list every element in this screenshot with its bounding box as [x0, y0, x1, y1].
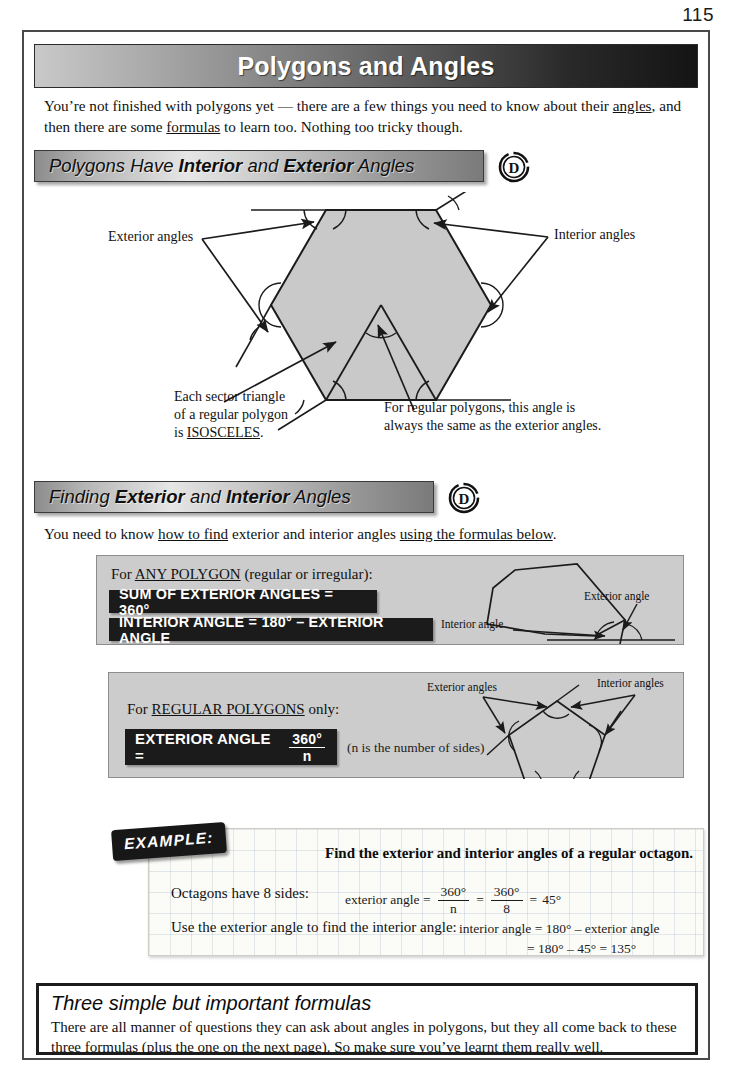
- reg-diagram-label-interior: Interior angles: [597, 677, 664, 689]
- example-line-3-math: = 180° – 45° = 135°: [527, 941, 636, 957]
- example-line-2-math: interior angle = 180° – exterior angle: [459, 921, 659, 937]
- sh1-a: Polygons Have: [49, 155, 179, 176]
- hex-note-sector-pre: is: [174, 425, 187, 440]
- summary-text: There are all manner of questions they c…: [51, 1017, 683, 1057]
- any-polygon-lead: For ANY POLYGON (regular or irregular):: [111, 566, 373, 583]
- formula-interior-angle: INTERIOR ANGLE = 180° – EXTERIOR ANGLE: [109, 618, 433, 641]
- any-lead-post: (regular or irregular):: [241, 566, 373, 582]
- hex-label-exterior-angles: Exterior angles: [108, 228, 193, 246]
- any-lead-underline: ANY POLYGON: [135, 566, 241, 582]
- grade-badge-icon: D: [447, 481, 481, 515]
- reg-diagram-label-exterior: Exterior angles: [427, 681, 497, 693]
- example-line-1-math: exterior angle = 360° n = 360° 8 = 45°: [345, 885, 561, 915]
- hex-note-regular-angle: For regular polygons, this angle is alwa…: [384, 399, 601, 435]
- regular-polygon-formula-panel: For REGULAR POLYGONS only: EXTERIOR ANGL…: [108, 672, 684, 778]
- sh2-e: Angles: [290, 486, 351, 507]
- example-line-1: Octagons have 8 sides:: [171, 885, 309, 902]
- example-line1-math-label: exterior angle =: [345, 892, 431, 908]
- any-diagram-label-exterior: Exterior angle: [584, 590, 649, 602]
- grade-badge-letter-1: D: [509, 160, 520, 176]
- section-heading-finding-exterior-interior: Finding Exterior and Interior Angles: [34, 481, 434, 513]
- reg-formula-label: EXTERIOR ANGLE =: [135, 730, 283, 764]
- hex-note-sector-line3: is ISOSCELES.: [174, 424, 288, 442]
- reg-lead-post: only:: [305, 701, 340, 717]
- reg-lead-pre: For: [127, 701, 152, 717]
- hex-note-sector-line1: Each sector triangle: [174, 388, 288, 406]
- regular-polygon-lead: For REGULAR POLYGONS only:: [127, 701, 339, 718]
- any-polygon-formula-panel: For ANY POLYGON (regular or irregular): …: [96, 555, 684, 645]
- example-line1-lead: Octagons have 8 sides:: [171, 885, 309, 901]
- grade-badge-letter-2: D: [459, 491, 470, 507]
- example-eq-1: =: [476, 892, 484, 908]
- example-frac2-den: 8: [500, 901, 513, 916]
- any-diagram-label-interior: Interior angle: [441, 618, 503, 630]
- intro-text-3: to learn too. Nothing too tricky though.: [220, 118, 463, 135]
- example-line1-result: 45°: [542, 892, 561, 908]
- hex-label-interior-angles: Interior angles: [554, 226, 635, 244]
- s2-intro-1: You need to know: [44, 525, 158, 542]
- s2-intro-link-formulas-below: using the formulas below: [400, 525, 553, 542]
- sh1-d: Exterior: [283, 155, 353, 176]
- worked-example-box: Find the exterior and interior angles of…: [148, 828, 704, 956]
- hex-note-regular-line2: always the same as the exterior angles.: [384, 417, 601, 435]
- summary-title: Three simple but important formulas: [51, 992, 683, 1015]
- sh2-c: and: [185, 486, 226, 507]
- sh1-b: Interior: [179, 155, 243, 176]
- sh1-c: and: [242, 155, 283, 176]
- example-question: Find the exterior and interior angles of…: [325, 845, 693, 862]
- hex-note-sector-line2: of a regular polygon: [174, 406, 288, 424]
- section-heading-1-text: Polygons Have Interior and Exterior Angl…: [35, 155, 414, 177]
- formula-sum-of-exterior-angles: SUM OF EXTERIOR ANGLES = 360°: [109, 590, 377, 613]
- section-heading-2-text: Finding Exterior and Interior Angles: [35, 486, 351, 508]
- section-heading-polygons-have-interior-exterior: Polygons Have Interior and Exterior Angl…: [34, 150, 484, 182]
- intro-text-1: You’re not finished with polygons yet — …: [44, 97, 613, 114]
- intro-paragraph: You’re not finished with polygons yet — …: [44, 96, 694, 137]
- reg-formula-numerator: 360°: [289, 732, 325, 748]
- page-title-banner: Polygons and Angles: [34, 44, 698, 88]
- sh1-e: Angles: [353, 155, 414, 176]
- s2-intro-3: .: [553, 525, 557, 542]
- grade-badge-icon: D: [497, 150, 531, 184]
- hex-note-sector-triangle: Each sector triangle of a regular polygo…: [174, 388, 288, 442]
- s2-intro-link-how-to-find: how to find: [158, 525, 228, 542]
- formula-exterior-angle-regular: EXTERIOR ANGLE = 360° n: [125, 729, 337, 765]
- intro-link-formulas: formulas: [166, 118, 220, 135]
- example-frac1-num: 360°: [438, 885, 470, 901]
- s2-intro-2: exterior and interior angles: [228, 525, 400, 542]
- regular-pentagon-diagram: [439, 681, 679, 779]
- reg-lead-underline: REGULAR POLYGONS: [152, 701, 305, 717]
- page-title: Polygons and Angles: [237, 52, 494, 81]
- sh2-d: Interior: [226, 486, 290, 507]
- hex-note-sector-post: .: [260, 425, 264, 440]
- example-eq-2: =: [530, 892, 538, 908]
- reg-formula-denominator: n: [300, 748, 315, 763]
- hex-note-sector-isosceles: ISOSCELES: [187, 425, 260, 440]
- hex-note-regular-line1: For regular polygons, this angle is: [384, 399, 601, 417]
- reg-formula-fraction: 360° n: [289, 732, 325, 763]
- example-frac2-num: 360°: [491, 885, 523, 901]
- example-line-2: Use the exterior angle to find the inter…: [171, 919, 457, 936]
- section2-intro-paragraph: You need to know how to find exterior an…: [44, 524, 694, 544]
- sh2-a: Finding: [49, 486, 115, 507]
- hexagon-angles-diagram: Exterior angles Interior angles Each sec…: [36, 192, 698, 452]
- example-fraction-2: 360° 8: [491, 885, 523, 915]
- intro-link-angles: angles: [613, 97, 652, 114]
- example-fraction-1: 360° n: [438, 885, 470, 915]
- sh2-b: Exterior: [115, 486, 185, 507]
- summary-box: Three simple but important formulas Ther…: [36, 983, 698, 1055]
- any-lead-pre: For: [111, 566, 135, 582]
- example-frac1-den: n: [447, 901, 460, 916]
- page-number: 115: [682, 4, 714, 26]
